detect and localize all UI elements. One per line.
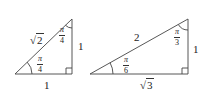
bottom-leg-label-2: √3 [140, 80, 154, 91]
right-leg-label-2: 1 [193, 44, 199, 55]
right-angle-marker-1 [66, 68, 72, 74]
radicand-2: 2 [36, 33, 44, 46]
triangles-diagram [0, 0, 207, 98]
radicand-3: 3 [146, 78, 154, 91]
angle-arc-top-1 [66, 25, 73, 28]
right-angle-marker-2 [182, 68, 188, 74]
angle-arc-bottom-left-2 [110, 63, 113, 74]
hypotenuse-label-1: √2 [30, 35, 44, 46]
angle-label-bottom-left-2: π 6 [123, 56, 129, 75]
angle-label-top-2: π 3 [174, 28, 180, 47]
angle-label-bottom-left-1: π 4 [37, 55, 43, 74]
hypotenuse-label-2: 2 [134, 32, 140, 43]
angle-arc-bottom-left-1 [27, 62, 32, 74]
bottom-leg-label-1: 1 [44, 80, 50, 91]
right-leg-label-1: 1 [78, 41, 84, 52]
angle-label-top-1: π 4 [59, 26, 65, 45]
